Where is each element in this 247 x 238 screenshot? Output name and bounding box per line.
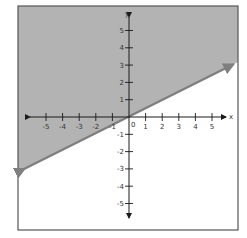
- x-axis-label: x: [229, 113, 233, 121]
- y-tick-label: -1: [117, 131, 124, 139]
- x-tick-label: -2: [92, 123, 99, 131]
- y-tick-label: 5: [120, 27, 124, 35]
- x-tick-label: 5: [210, 123, 214, 131]
- y-tick-label: -2: [117, 148, 124, 156]
- x-tick-label: -3: [76, 123, 83, 131]
- y-tick-label: 3: [120, 62, 124, 70]
- x-tick-label: -4: [59, 123, 67, 131]
- y-tick-label: 4: [120, 44, 125, 52]
- y-tick-label: -4: [117, 183, 125, 191]
- y-tick-label: -3: [117, 165, 124, 173]
- y-axis-label: y: [125, 10, 129, 18]
- x-tick-label: 2: [160, 123, 164, 131]
- x-tick-label: -5: [43, 123, 50, 131]
- origin-label: 0: [131, 121, 135, 129]
- x-tick-label: -1: [109, 123, 116, 131]
- x-tick-label: 4: [193, 123, 198, 131]
- y-tick-label: 2: [120, 79, 124, 87]
- y-tick-label: -5: [117, 200, 124, 208]
- graph: -5-4-3-2-112345 54321-1-2-3-4-5 x y 0: [0, 0, 247, 238]
- x-tick-label: 1: [143, 123, 147, 131]
- x-tick-label: 3: [177, 123, 181, 131]
- y-tick-label: 1: [120, 96, 124, 104]
